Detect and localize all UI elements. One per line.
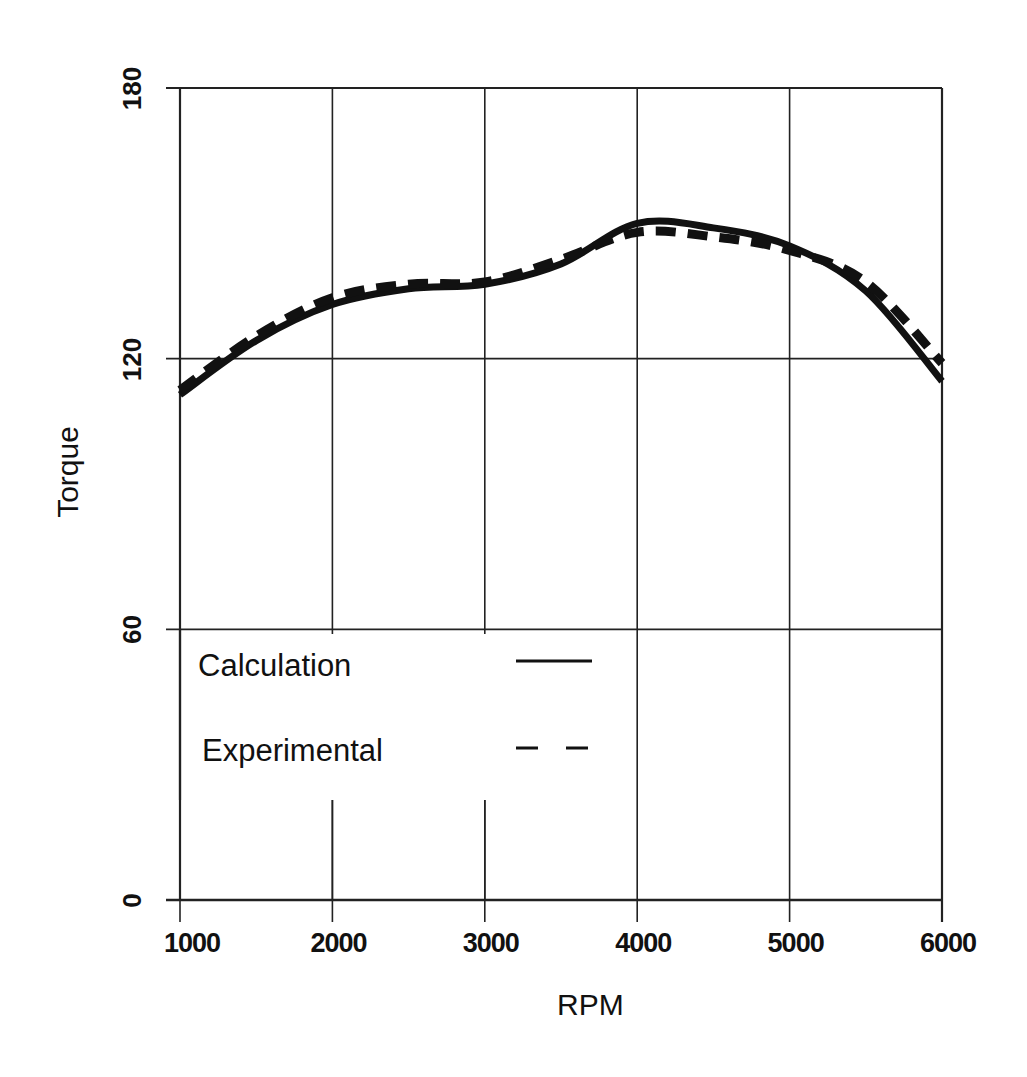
y-tick-label: 180 — [117, 66, 148, 111]
x-tick-label: 1000 — [164, 928, 220, 959]
series-calculation — [180, 221, 942, 395]
x-tick-label: 5000 — [768, 928, 824, 959]
legend-label-calculation: Calculation — [198, 648, 351, 684]
x-tick-label: 3000 — [463, 928, 519, 959]
y-axis-title: Torque — [51, 426, 85, 518]
data-series — [180, 221, 942, 395]
x-axis-title: RPM — [557, 988, 624, 1022]
torque-rpm-chart — [0, 0, 1027, 1077]
x-tick-label: 2000 — [310, 928, 366, 959]
series-experimental — [180, 231, 942, 390]
legend-label-experimental: Experimental — [202, 733, 383, 769]
x-tick-label: 4000 — [615, 928, 671, 959]
y-tick-label: 0 — [117, 893, 148, 908]
y-tick-label: 60 — [117, 615, 148, 645]
x-tick-label: 6000 — [920, 928, 976, 959]
y-tick-label: 120 — [117, 337, 148, 382]
